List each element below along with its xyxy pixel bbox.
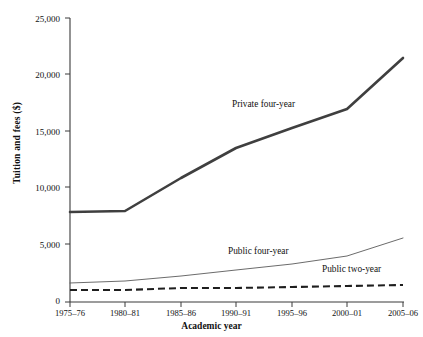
series-annotation-public-two-year: Public two-year	[322, 264, 381, 274]
series-line-public-four-year	[70, 238, 403, 283]
y-tick-label-25000: 25,000	[14, 14, 60, 24]
series-line-private-four-year	[70, 58, 403, 212]
chart-figure: Tuition and fees ($) 25,000 20,000 15,00…	[0, 0, 423, 337]
series-annotation-public-four-year: Public four-year	[228, 246, 288, 256]
x-tick-label-1980-81: 1980–81	[95, 308, 155, 318]
series-line-public-two-year	[70, 285, 403, 290]
x-tick-label-1990-91: 1990–91	[206, 308, 266, 318]
y-tick-label-15000: 15,000	[14, 127, 60, 137]
x-axis-ticks	[70, 302, 403, 307]
x-tick-label-1975-76: 1975–76	[40, 308, 100, 318]
x-tick-label-1985-86: 1985–86	[151, 308, 211, 318]
y-tick-label-5000: 5,000	[14, 240, 60, 250]
y-axis-title: Tuition and fees ($)	[12, 63, 22, 223]
x-axis-title: Academic year	[0, 321, 423, 331]
y-tick-label-10000: 10,000	[14, 183, 60, 193]
y-tick-label-20000: 20,000	[14, 70, 60, 80]
y-tick-label-0: 0	[14, 296, 60, 306]
chart-canvas	[0, 0, 423, 337]
y-axis-ticks	[65, 18, 70, 302]
x-tick-label-2005-06: 2005–06	[373, 308, 423, 318]
x-tick-label-2000-01: 2000–01	[317, 308, 377, 318]
x-tick-label-1995-96: 1995–96	[262, 308, 322, 318]
series-annotation-private-four-year: Private four-year	[232, 99, 295, 109]
